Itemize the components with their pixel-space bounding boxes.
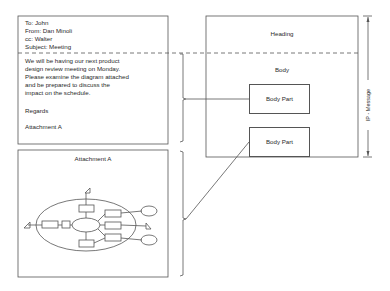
memo-body-line: design review meeting on Monday. (25, 65, 129, 73)
ip-message-dimension-label: IP - Message (364, 80, 372, 130)
body-part-box-2: Body Part (249, 127, 310, 157)
memo-body-line: We will be having our next product (25, 57, 129, 65)
memo-body-line: and be prepared to discuss the (25, 81, 129, 89)
memo-body-line: Please examine the diagram attached (25, 73, 129, 81)
attachment-schematic (24, 188, 157, 251)
memo-body-line: impact on the schedule. (25, 89, 129, 97)
memo-closing: Regards (25, 107, 48, 115)
memo-to: To: John (25, 19, 72, 27)
memo-subject: Subject: Meeting (25, 43, 72, 51)
memo-heading: To: John From: Dan Minoli cc: Walter Sub… (25, 19, 72, 51)
body-label: Body (206, 66, 358, 74)
memo-attachment-ref: Attachment A (25, 123, 62, 131)
arrow-up-icon (367, 17, 370, 22)
memo-body: We will be having our next product desig… (25, 57, 129, 97)
body-part-box-1: Body Part (249, 84, 310, 114)
body-part-label: Body Part (266, 138, 293, 146)
memo-cc: cc: Walter (25, 35, 72, 43)
heading-label: Heading (206, 30, 358, 38)
body-part-label: Body Part (266, 95, 293, 103)
arrow-down-icon (367, 151, 370, 156)
attachment-bracket (180, 151, 186, 276)
memo-from: From: Dan Minoli (25, 27, 72, 35)
body-bracket (180, 54, 186, 142)
attachment-title: Attachment A (18, 155, 168, 163)
connector-body-part-2 (186, 142, 249, 219)
